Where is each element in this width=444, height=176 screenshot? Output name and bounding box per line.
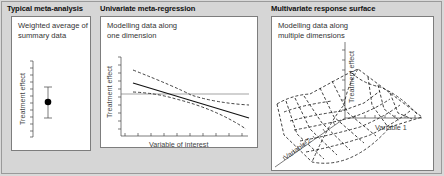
panel-title-meta-regression: Univariate meta-regression	[100, 4, 195, 13]
pooled-estimate-dot	[45, 99, 52, 106]
y-axis-label: Treatment effect	[105, 66, 114, 118]
y-axis-label: Variable 2	[282, 136, 313, 162]
panel-response-surface: Modelling data along multiple dimensions…	[271, 16, 434, 171]
panel-meta-regression: Modelling data along one dimension Treat…	[100, 16, 258, 148]
regression-line	[133, 83, 249, 118]
z-axis-label: Treatment effect	[347, 51, 356, 103]
forest-point-chart: Treatment effect	[12, 17, 92, 152]
panel-title-meta-analysis: Typical meta-analysis	[7, 4, 83, 13]
panel-meta-analysis: Weighted average of summary data Treatme…	[11, 16, 91, 151]
regression-chart: Treatment effect Variable of interest	[101, 17, 259, 149]
x-axis-label: Variable of interest	[149, 140, 208, 149]
upper-confidence-band	[133, 70, 249, 105]
y-axis-label: Treatment effect	[18, 73, 27, 125]
response-surface-chart: Treatment effect Variable 1 Variable 2	[272, 17, 435, 172]
lower-confidence-band	[133, 92, 246, 129]
y-axis-ticks	[30, 61, 33, 137]
x-axis-ticks	[125, 133, 242, 136]
y-axis-ticks	[118, 57, 121, 129]
panel-title-response-surface: Multivariate response surface	[271, 4, 375, 13]
